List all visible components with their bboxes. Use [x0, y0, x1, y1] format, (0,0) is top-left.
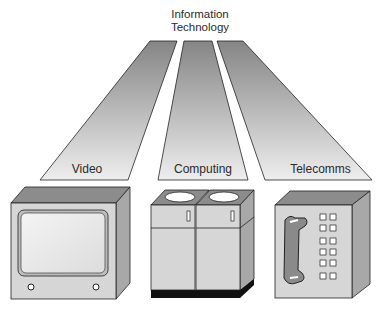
telephone-icon	[275, 191, 370, 298]
television-icon	[11, 187, 130, 299]
diagram-title: Information Technology	[140, 8, 260, 34]
diagram-canvas	[0, 0, 386, 315]
title-line-2: Technology	[140, 21, 260, 34]
computer-cabinets-icon	[151, 190, 254, 298]
label-telecomms: Telecomms	[283, 162, 358, 176]
title-line-1: Information	[140, 8, 260, 21]
label-computing: Computing	[168, 162, 238, 176]
label-video: Video	[62, 162, 112, 176]
beam-video	[40, 41, 177, 180]
